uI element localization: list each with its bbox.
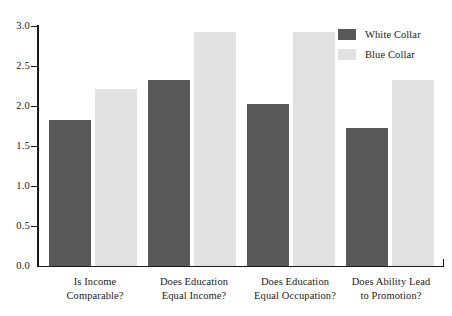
x-axis-group-label-4-line-2: to Promotion?: [331, 289, 451, 303]
legend-label-blue-collar: Blue Collar: [365, 49, 415, 60]
y-tick-label-1-5: 1.5: [4, 141, 30, 152]
bar-white-collar-4: [346, 128, 388, 266]
bar-blue-collar-2: [194, 32, 236, 266]
bar-white-collar-1: [49, 120, 91, 266]
bar-blue-collar-1: [95, 89, 137, 266]
bar-blue-collar-4: [392, 80, 434, 266]
y-tick-label-3-0: 3.0: [4, 21, 30, 32]
y-tick-label-0-5: 0.5: [4, 221, 30, 232]
bar-chart: 3.0 2.5 2.0 1.5 1.0 0.5 0.0 Is Income: [0, 0, 452, 316]
y-tick-label-2-5: 2.5: [4, 61, 30, 72]
legend-label-white-collar: White Collar: [365, 29, 421, 40]
bar-blue-collar-3: [293, 32, 335, 266]
y-tick-label-2-0: 2.0: [4, 101, 30, 112]
bar-white-collar-3: [247, 104, 289, 266]
legend-swatch-blue-collar: [338, 49, 356, 60]
legend-item-white-collar: White Collar: [338, 24, 421, 44]
legend-item-blue-collar: Blue Collar: [338, 44, 421, 64]
y-tick-label-0-0: 0.0: [4, 261, 30, 272]
x-axis-group-label-4: Does Ability Lead to Promotion?: [331, 275, 451, 303]
y-axis-tick-labels: 3.0 2.5 2.0 1.5 1.0 0.5 0.0: [0, 0, 30, 316]
x-axis-group-label-4-line-1: Does Ability Lead: [331, 275, 451, 289]
legend: White Collar Blue Collar: [338, 24, 421, 64]
y-tick-label-1-0: 1.0: [4, 181, 30, 192]
bar-white-collar-2: [148, 80, 190, 266]
legend-swatch-white-collar: [338, 29, 356, 40]
